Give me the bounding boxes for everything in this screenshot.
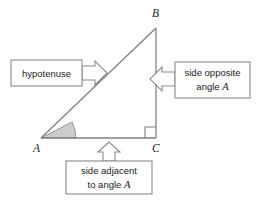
callout-side-opposite-word: angle [196, 81, 222, 92]
angle-variable-label: A [221, 81, 229, 92]
callout-hypotenuse-line-1: hypotenuse [22, 68, 71, 79]
angle-a-shaded-wedge [41, 122, 76, 138]
callout-side-opposite[interactable]: side opposite angle A [150, 62, 250, 98]
callout-side-adjacent[interactable]: side adjacent to angle A [66, 142, 152, 194]
arrow-right-icon [82, 61, 107, 85]
callout-side-adjacent-line-2: to angle A [88, 179, 131, 190]
vertex-label-c: C [152, 142, 160, 154]
angle-variable-label: A [123, 179, 131, 190]
callout-side-adjacent-line-1: side adjacent [81, 165, 137, 176]
callout-side-adjacent-word: to angle [88, 179, 124, 190]
figure-canvas: B A C hypotenuse side opposite angle A s… [0, 0, 258, 206]
triangle-diagram-svg: B A C hypotenuse side opposite angle A s… [0, 0, 258, 206]
vertex-label-a: A [32, 142, 41, 154]
callout-side-opposite-line-2: angle A [196, 81, 229, 92]
arrow-up-icon [98, 142, 120, 161]
right-angle-marker [145, 127, 156, 138]
vertex-label-b: B [152, 7, 159, 19]
callout-side-opposite-line-1: side opposite [185, 67, 241, 78]
arrow-left-icon [150, 67, 175, 91]
callout-hypotenuse[interactable]: hypotenuse [11, 60, 107, 86]
